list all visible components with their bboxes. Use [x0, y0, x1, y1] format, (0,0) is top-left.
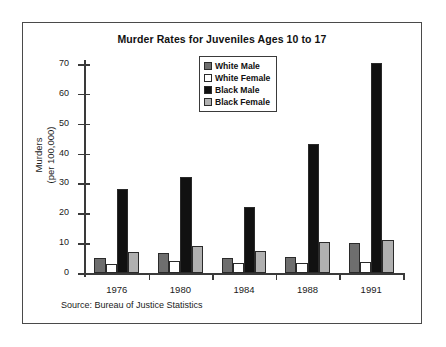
- source-note: Source: Bureau of Justice Statistics: [61, 300, 203, 310]
- y-tick-mark: [78, 273, 90, 275]
- legend-item: White Female: [204, 72, 270, 84]
- x-tick-mark: [276, 273, 278, 280]
- legend-label: White Female: [215, 73, 270, 83]
- bar: [285, 257, 296, 273]
- legend-label: Black Male: [215, 85, 259, 95]
- chart-legend: White MaleWhite FemaleBlack MaleBlack Fe…: [199, 56, 277, 112]
- bar: [128, 252, 139, 273]
- bar: [180, 177, 191, 273]
- y-tick-label: 30: [23, 177, 69, 187]
- bar: [192, 246, 203, 273]
- x-axis-label-1984: 1984: [214, 284, 274, 295]
- x-axis-label-1976: 1976: [87, 284, 147, 295]
- y-tick-label: 50: [23, 118, 69, 128]
- legend-label: White Male: [215, 61, 260, 71]
- legend-item: Black Male: [204, 84, 270, 96]
- bar: [244, 207, 255, 273]
- y-tick-label: 10: [23, 237, 69, 247]
- y-tick-label: 60: [23, 88, 69, 98]
- bar: [296, 263, 307, 273]
- bar: [382, 240, 393, 273]
- y-tick-label: 40: [23, 148, 69, 158]
- chart-figure: Murder Rates for Juveniles Ages 10 to 17…: [22, 22, 422, 324]
- bar: [222, 258, 233, 273]
- bar: [94, 258, 105, 273]
- x-axis-label-1991: 1991: [341, 284, 401, 295]
- y-tick-label: 20: [23, 207, 69, 217]
- bar: [158, 253, 169, 273]
- bar: [255, 251, 266, 273]
- bar: [371, 63, 382, 273]
- bar: [106, 264, 117, 273]
- x-tick-mark: [339, 273, 341, 280]
- x-axis-label-1988: 1988: [278, 284, 338, 295]
- bar: [319, 242, 330, 273]
- legend-swatch-icon: [204, 74, 212, 82]
- legend-swatch-icon: [204, 86, 212, 94]
- legend-label: Black Female: [215, 97, 270, 107]
- y-tick-label: 0: [23, 267, 69, 277]
- legend-swatch-icon: [204, 62, 212, 70]
- x-tick-mark: [149, 273, 151, 280]
- x-axis-label-1980: 1980: [150, 284, 210, 295]
- x-axis-line: [84, 273, 404, 275]
- bar: [360, 262, 371, 273]
- x-tick-mark: [403, 273, 405, 280]
- y-tick-label: 70: [23, 58, 69, 68]
- bar: [349, 243, 360, 273]
- bar: [233, 263, 244, 273]
- bar: [117, 189, 128, 273]
- legend-item: Black Female: [204, 96, 270, 108]
- bar: [308, 144, 319, 273]
- chart-title: Murder Rates for Juveniles Ages 10 to 17: [23, 33, 421, 45]
- legend-swatch-icon: [204, 98, 212, 106]
- legend-item: White Male: [204, 60, 270, 72]
- bar: [169, 261, 180, 273]
- x-tick-mark: [212, 273, 214, 280]
